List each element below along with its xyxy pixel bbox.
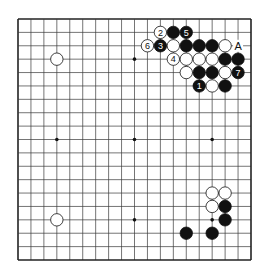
white-stone <box>193 53 205 65</box>
white-stone <box>206 187 218 199</box>
white-stone <box>206 200 218 212</box>
white-stone-2: 2 <box>154 26 166 38</box>
white-stone <box>167 40 179 52</box>
white-stone <box>219 187 231 199</box>
markers: A <box>233 40 243 52</box>
star-point <box>133 138 137 142</box>
move-number: 5 <box>184 28 189 38</box>
black-stone <box>180 227 192 239</box>
star-point <box>55 138 59 142</box>
white-stone <box>51 53 63 65</box>
move-number: 4 <box>171 54 176 64</box>
black-stone-3: 3 <box>154 40 166 52</box>
black-stone <box>219 214 231 226</box>
white-stone <box>51 214 63 226</box>
white-stone <box>219 40 231 52</box>
star-point <box>133 218 137 222</box>
white-stone <box>206 80 218 92</box>
white-stone <box>219 66 231 78</box>
white-stone-4: 4 <box>167 53 179 65</box>
black-stone <box>206 227 218 239</box>
star-point <box>210 218 214 222</box>
star-point <box>210 138 214 142</box>
black-stone <box>219 200 231 212</box>
white-stone <box>180 66 192 78</box>
black-stone <box>232 53 244 65</box>
white-stone <box>206 53 218 65</box>
black-stone-5: 5 <box>180 26 192 38</box>
star-point <box>133 57 137 61</box>
black-stone <box>219 80 231 92</box>
black-stone <box>193 40 205 52</box>
move-number: 7 <box>236 68 241 78</box>
black-stone <box>180 40 192 52</box>
move-number: 2 <box>158 28 163 38</box>
black-stone <box>206 66 218 78</box>
white-stone-6: 6 <box>141 40 153 52</box>
white-stone <box>180 53 192 65</box>
black-stone <box>193 66 205 78</box>
move-number: 3 <box>158 41 163 51</box>
black-stone <box>167 26 179 38</box>
point-label-A: A <box>234 40 242 52</box>
black-stone-1: 1 <box>193 80 205 92</box>
black-stone <box>219 53 231 65</box>
move-number: 1 <box>197 81 202 91</box>
move-number: 6 <box>145 41 150 51</box>
go-board: 2563471 A <box>0 0 269 275</box>
black-stone <box>206 40 218 52</box>
black-stone-7: 7 <box>232 66 244 78</box>
